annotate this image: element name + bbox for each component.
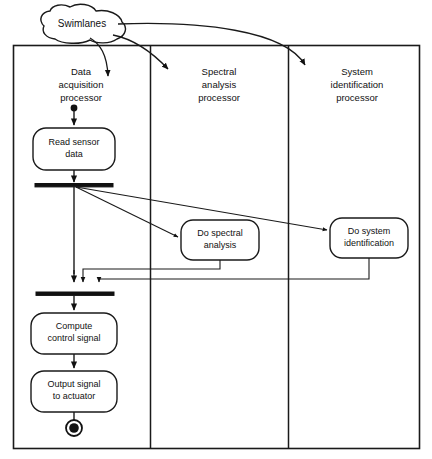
activity-label-line1: Do spectral [197,228,243,238]
activity-label-line1: Read sensor [48,137,99,147]
lane-title-line1: Spectral [202,66,237,77]
lane-title-line2: identification [331,79,384,90]
activity-label-line2: analysis [204,240,237,250]
lane-title-data-acquisition: Data acquisition processor [59,66,104,103]
activity-do-system-identification: Do system identification [330,218,408,258]
flow-initial-to-read-sensor [71,105,78,125]
return-edges-to-join [74,258,369,282]
lane-title-line2: analysis [202,79,237,90]
flow-output-to-final [66,412,82,436]
activity-label-line1: Compute [56,321,93,331]
annotation-leader-to-lane-2 [113,35,168,69]
activity-diagram-canvas: Data acquisition processor Spectral anal… [0,0,432,459]
lane-title-system-identification: System identification processor [331,66,384,103]
activity-label-line1: Output signal [47,379,100,389]
edge-fork-to-spectral-analysis [76,187,178,237]
activity-label-line2: data [65,149,83,159]
lane-title-line3: processor [198,92,240,103]
diagram-svg: Data acquisition processor Spectral anal… [0,0,432,459]
lane-title-spectral-analysis: Spectral analysis processor [198,66,240,103]
edge-system-identification-to-join [99,258,369,282]
fork-bar [35,184,113,187]
activity-read-sensor-data: Read sensor data [33,128,115,170]
activity-label-line1: Do system [348,226,391,236]
initial-node [71,105,78,112]
final-node-core [69,423,79,433]
lane-title-line1: System [341,66,373,77]
annotation-leader-to-lane-3 [118,23,305,65]
lane-title-line3: processor [336,92,378,103]
activity-do-spectral-analysis: Do spectral analysis [181,220,259,260]
lane-title-line1: Data [71,66,92,77]
activity-label-line2: control signal [47,333,100,343]
join-bar [36,292,114,295]
lane-title-line3: processor [60,92,102,103]
activity-output-signal-to-actuator: Output signal to actuator [31,371,117,412]
lane-title-line2: acquisition [59,79,104,90]
activity-label-line2: identification [344,238,394,248]
annotation-leader-to-lane-1 [90,38,108,76]
activity-compute-control-signal: Compute control signal [31,313,117,354]
annotation-label: Swimlanes [58,18,106,29]
activity-label-line2: to actuator [53,391,96,401]
